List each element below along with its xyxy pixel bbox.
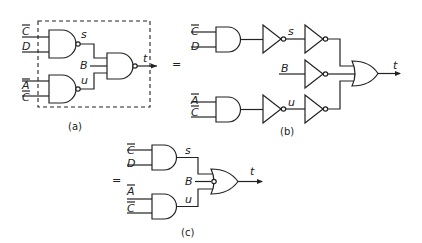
and-gate-2 <box>152 194 177 219</box>
and-gate-1 <box>152 145 177 170</box>
panel-c: C D A C s u B t (c) <box>126 144 263 238</box>
input-label-b: B <box>80 59 88 72</box>
inversion-bubble <box>133 64 137 68</box>
nand-gate-1 <box>49 30 76 58</box>
input-label-c-bar: C <box>22 91 30 104</box>
signal-label-u: u <box>185 193 192 206</box>
not-gate-4 <box>263 95 281 123</box>
caption-a: (a) <box>68 121 82 132</box>
or-gate <box>352 61 378 86</box>
not-gate-2 <box>305 25 323 53</box>
caption-b: (b) <box>280 126 294 137</box>
output-label-t: t <box>250 165 255 178</box>
equals-sign: = <box>112 174 121 187</box>
inversion-bubble <box>76 87 80 91</box>
signal-label-s: s <box>81 28 87 41</box>
equals-sign: = <box>172 58 181 71</box>
logic-circuit-figure: C D A C s u B t (a) = C <box>0 0 422 243</box>
output-arrow-icon <box>257 179 263 184</box>
input-label-d: D <box>22 40 30 53</box>
inversion-bubble <box>212 179 216 183</box>
circuit-diagram: C D A C s u B t (a) = C <box>0 0 422 243</box>
not-gate-5 <box>305 95 323 123</box>
input-label-b: B <box>281 62 289 75</box>
input-label-d: D <box>127 157 135 170</box>
and-gate-1 <box>216 27 241 52</box>
input-label-b: B <box>185 175 193 188</box>
panel-b: C D A C s u B <box>190 25 401 137</box>
input-label-c-bar: C <box>22 25 30 38</box>
caption-c: (c) <box>181 227 194 238</box>
output-arrow-icon <box>151 64 157 69</box>
output-label-t: t <box>143 52 148 65</box>
and-gate-2 <box>216 97 241 122</box>
nand-gate-3 <box>107 53 133 79</box>
signal-label-u: u <box>288 96 295 109</box>
not-gate-1 <box>263 25 281 53</box>
signal-label-s: s <box>288 25 294 38</box>
nand-gate-2 <box>49 75 76 103</box>
panel-a: C D A C s u B t (a) <box>21 21 157 132</box>
inversion-bubble <box>76 42 80 46</box>
input-label-a-bar: A <box>126 185 135 198</box>
signal-label-s: s <box>185 144 191 157</box>
not-gate-3 <box>305 60 323 88</box>
output-label-t: t <box>393 59 398 72</box>
signal-label-u: u <box>81 74 88 87</box>
